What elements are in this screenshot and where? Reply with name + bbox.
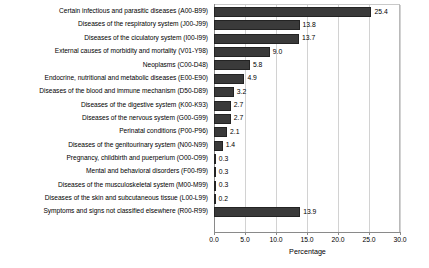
bar-row: 9.0: [214, 46, 400, 59]
bar-row: 0.3: [214, 179, 400, 192]
bar-row: 4.9: [214, 72, 400, 85]
bar-row: 2.1: [214, 126, 400, 139]
category-label: Mental and behavioral disorders (F00-f99…: [0, 167, 208, 175]
category-label: Symptoms and signs not classified elsewh…: [0, 207, 208, 215]
category-label: Pregnancy, childbirth and puerperium (O0…: [0, 154, 208, 162]
tick-label: 30.0: [387, 235, 413, 244]
bar[interactable]: [214, 194, 216, 204]
horizontal-bar-chart: Certain infectious and parasitic disease…: [0, 0, 429, 268]
category-label: Diseases of the digestive system (K00-K9…: [0, 101, 208, 109]
bar-value-label: 9.0: [273, 48, 282, 56]
bar-row: 13.9: [214, 206, 400, 219]
category-axis: Certain infectious and parasitic disease…: [0, 0, 211, 232]
bar-value-label: 13.7: [302, 34, 315, 42]
bar[interactable]: [214, 20, 300, 30]
bar[interactable]: [214, 114, 231, 124]
bar[interactable]: [214, 207, 300, 217]
gridline: [400, 5, 401, 232]
bar[interactable]: [214, 7, 371, 17]
bar-value-label: 0.3: [219, 181, 228, 189]
category-label: Diseases of the respiratory system (J00-…: [0, 20, 208, 28]
bar-row: 3.2: [214, 86, 400, 99]
category-label: Perinatal conditions (P00-P96): [0, 127, 208, 135]
bar-value-label: 0.3: [219, 168, 228, 176]
x-axis-title: Percentage: [214, 247, 401, 256]
bar-row: 2.7: [214, 99, 400, 112]
bar[interactable]: [214, 127, 227, 137]
tick-label: 25.0: [356, 235, 382, 244]
tick-label: 0.0: [201, 235, 227, 244]
category-label: Endocrine, nutritional and metabolic dis…: [0, 74, 208, 82]
bar[interactable]: [214, 87, 234, 97]
bar-row: 25.4: [214, 6, 400, 19]
category-label: Certain infectious and parasitic disease…: [0, 7, 208, 15]
bar-value-label: 13.9: [303, 208, 316, 216]
bar-value-label: 3.2: [237, 88, 246, 96]
tick-label: 20.0: [325, 235, 351, 244]
tick-label: 15.0: [294, 235, 320, 244]
bar[interactable]: [214, 181, 216, 191]
bar[interactable]: [214, 101, 231, 111]
category-label: Neoplasms (C00-D48): [0, 61, 208, 69]
bar[interactable]: [214, 34, 299, 44]
category-label: Diseases of the blood and immune mechani…: [0, 87, 208, 95]
category-label: Diseases of the nervous system (G00-G99): [0, 114, 208, 122]
bar-row: 0.2: [214, 192, 400, 205]
category-label: Diseases of the musculoskeletal system (…: [0, 181, 208, 189]
bar-value-label: 4.9: [247, 74, 256, 82]
bar-row: 2.7: [214, 112, 400, 125]
bar-value-label: 2.7: [234, 101, 243, 109]
category-label: Diseases of the genitourinary system (N0…: [0, 141, 208, 149]
bar-row: 5.8: [214, 59, 400, 72]
bar[interactable]: [214, 60, 250, 70]
bar[interactable]: [214, 141, 223, 151]
bar-value-label: 1.4: [226, 141, 235, 149]
bar-row: 13.7: [214, 32, 400, 45]
bar-value-label: 2.7: [234, 114, 243, 122]
bar-value-label: 0.3: [219, 155, 228, 163]
bar-row: 13.8: [214, 19, 400, 32]
bar-row: 1.4: [214, 139, 400, 152]
bar-value-label: 2.1: [230, 128, 239, 136]
tick-label: 10.0: [263, 235, 289, 244]
bar-value-label: 13.8: [303, 21, 316, 29]
bar-value-label: 5.8: [253, 61, 262, 69]
tick-label: 5.0: [232, 235, 258, 244]
bar-row: 0.3: [214, 166, 400, 179]
bar[interactable]: [214, 167, 216, 177]
bar-value-label: 0.2: [219, 195, 228, 203]
bar[interactable]: [214, 74, 244, 84]
bar[interactable]: [214, 154, 216, 164]
category-label: External causes of morbidity and mortali…: [0, 47, 208, 55]
category-label: Diseases of the ciculatory system (I00-I…: [0, 34, 208, 42]
bar-row: 0.3: [214, 152, 400, 165]
bar[interactable]: [214, 47, 270, 57]
category-label: Diseases of the skin and subcutaneous ti…: [0, 194, 208, 202]
bar-value-label: 25.4: [374, 8, 387, 16]
